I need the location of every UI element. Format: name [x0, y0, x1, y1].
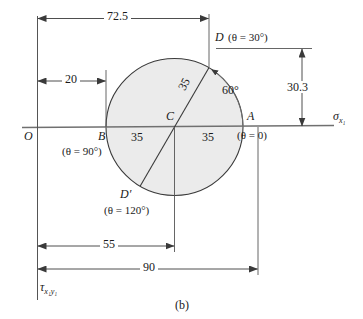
mohrs-circle-svg [0, 0, 363, 319]
point-note-b: (θ = 90°) [62, 146, 102, 157]
tau-subscript: x₁y₁ [44, 287, 57, 296]
dim-label-55: 55 [100, 238, 118, 250]
point-note-dprime: (θ = 120°) [104, 205, 149, 216]
sigma-axis-label: σx₁ [333, 110, 345, 126]
point-label-c: C [166, 110, 174, 122]
dim-label-radius-right: 35 [202, 131, 214, 143]
point-label-o: O [24, 130, 33, 142]
point-note-a: (θ = 0) [237, 130, 267, 141]
angle-label-60: 60° [222, 84, 239, 96]
dim-label-20: 20 [62, 73, 80, 85]
point-note-d: (θ = 30°) [228, 32, 268, 43]
dim-label-30-3: 30.3 [285, 81, 310, 93]
point-label-b: B [98, 130, 105, 142]
figure-caption: (b) [175, 298, 189, 313]
dim-label-radius-left: 35 [131, 131, 143, 143]
point-label-dprime: D′ [120, 188, 131, 200]
tau-axis-label: τx₁y₁ [40, 281, 57, 297]
dim-label-72-5: 72.5 [104, 10, 131, 22]
point-label-d: D [215, 31, 224, 43]
dim-label-90: 90 [140, 261, 158, 273]
figure-root: 72.5 20 30.3 55 90 35 35 35 60° O C A (θ… [0, 0, 363, 319]
sigma-axis-line [22, 126, 334, 128]
sigma-subscript: x₁ [339, 116, 345, 125]
point-label-a: A [247, 110, 254, 122]
